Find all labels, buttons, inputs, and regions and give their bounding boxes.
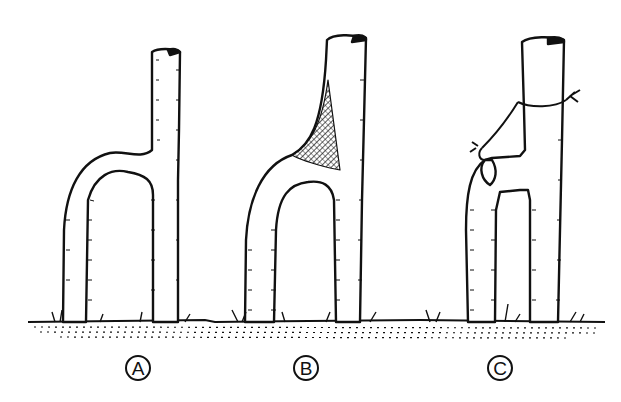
stem-c xyxy=(466,37,580,322)
label-a: A xyxy=(125,355,151,381)
stem-b xyxy=(245,35,366,322)
grass xyxy=(52,304,584,322)
illustration xyxy=(0,0,621,402)
stem-a xyxy=(63,49,180,322)
ground xyxy=(28,320,605,338)
label-b: B xyxy=(293,355,319,381)
label-c: C xyxy=(487,355,513,381)
